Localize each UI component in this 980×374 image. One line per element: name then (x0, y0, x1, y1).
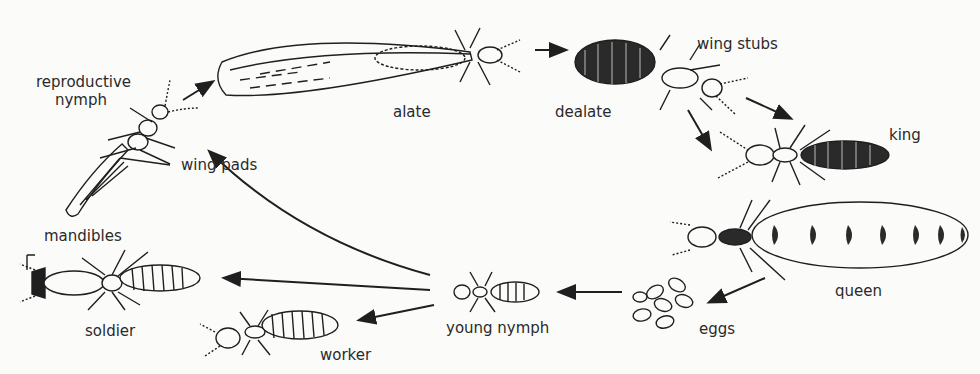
king-icon (718, 125, 889, 185)
label-reproductive-line1: reproductive (36, 73, 126, 91)
label-king: king (889, 126, 921, 144)
label-mandibles: mandibles (44, 227, 122, 245)
eggs-icon (632, 275, 694, 330)
label-reproductive-nymph: reproductive nymph (36, 73, 126, 109)
label-queen: queen (835, 282, 882, 300)
queen-icon (670, 200, 968, 280)
label-young-nymph: young nymph (446, 319, 549, 337)
soldier-icon (20, 250, 200, 310)
label-soldier: soldier (85, 322, 135, 340)
label-wing-pads: wing pads (181, 156, 257, 174)
illustration (0, 0, 980, 374)
label-reproductive-line2: nymph (36, 91, 126, 109)
label-dealate: dealate (555, 103, 611, 121)
worker-icon (200, 310, 338, 356)
alate-icon (218, 28, 520, 96)
young-nymph-icon (454, 272, 539, 312)
label-wing-stubs: wing stubs (697, 35, 778, 53)
label-alate: alate (393, 103, 431, 121)
termite-life-cycle-diagram: reproductive nymph wing pads alate deala… (0, 0, 980, 374)
label-worker: worker (320, 346, 371, 364)
label-eggs: eggs (699, 320, 735, 338)
